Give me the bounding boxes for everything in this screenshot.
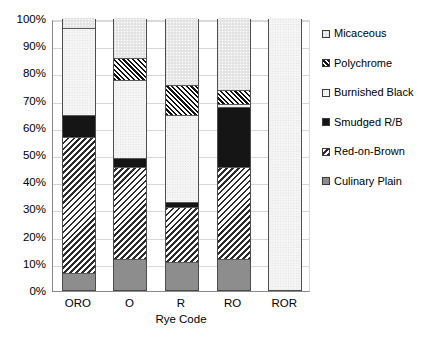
bar-segment[interactable] [63,274,95,290]
bar-segment[interactable] [63,138,95,274]
bar-segment[interactable] [218,18,250,91]
bar-segment[interactable] [218,168,250,260]
bar-segment[interactable] [166,263,198,290]
y-axis-tick-label: 80% [0,68,46,79]
legend-item-label: Smudged R/B [334,117,402,128]
legend-swatch-icon [322,177,330,185]
legend-item-label: Polychrome [334,58,392,69]
bar-segment[interactable] [114,168,146,260]
y-axis-tick-label: 40% [0,177,46,188]
legend-item[interactable]: Polychrome [322,58,424,69]
bar-segment[interactable] [166,116,198,203]
y-axis-tick-label: 90% [0,41,46,52]
y-axis-tick-label: 50% [0,150,46,161]
y-axis-tick-label: 10% [0,259,46,270]
legend: MicaceousPolychromeBurnished BlackSmudge… [322,28,424,206]
legend-swatch-icon [322,30,330,38]
bar-segment[interactable] [166,208,198,262]
stacked-bar-chart: 0%10%20%30%40%50%60%70%80%90%100% OROORR… [0,0,424,337]
legend-item[interactable]: Burnished Black [322,87,424,98]
x-axis-title: Rye Code [52,313,310,325]
legend-item-label: Burnished Black [334,87,414,98]
bar-segment[interactable] [114,260,146,290]
bar-segment[interactable] [218,260,250,290]
bar-segment[interactable] [218,105,250,108]
bar-o[interactable] [113,19,147,291]
legend-swatch-icon [322,148,330,156]
bar-oro[interactable] [62,19,96,291]
bar-segment[interactable] [114,81,146,160]
legend-item[interactable]: Micaceous [322,28,424,39]
legend-swatch-icon [322,118,330,126]
y-axis-tick-label: 70% [0,96,46,107]
bar-segment[interactable] [166,86,198,116]
legend-item[interactable]: Smudged R/B [322,117,424,128]
bar-ror[interactable] [268,19,302,291]
bar-r[interactable] [165,19,199,291]
bar-segment[interactable] [166,18,198,86]
bar-segment[interactable] [63,29,95,116]
bar-segment[interactable] [269,18,301,290]
bar-segment[interactable] [114,59,146,81]
bar-segment[interactable] [114,18,146,59]
plot-area [52,20,310,292]
legend-swatch-icon [322,59,330,67]
x-axis-tick-label: ROR [254,296,314,310]
legend-item[interactable]: Culinary Plain [322,176,424,187]
legend-item-label: Micaceous [334,28,387,39]
y-axis-labels: 0%10%20%30%40%50%60%70%80%90%100% [0,0,48,337]
y-axis-tick-label: 20% [0,232,46,243]
x-axis-labels: OROORROROR [0,296,424,314]
bar-segment[interactable] [114,159,146,167]
legend-item-label: Culinary Plain [334,176,402,187]
legend-item[interactable]: Red-on-Brown [322,146,424,157]
bar-segment[interactable] [218,108,250,168]
bar-segment[interactable] [63,18,95,29]
bar-segment[interactable] [63,116,95,138]
legend-item-label: Red-on-Brown [334,146,405,157]
bar-segment[interactable] [218,91,250,105]
bar-ro[interactable] [217,19,251,291]
bar-segment[interactable] [166,203,198,208]
y-axis-tick-label: 100% [0,14,46,25]
legend-swatch-icon [322,89,330,97]
y-axis-tick-label: 30% [0,204,46,215]
y-axis-tick-label: 60% [0,123,46,134]
